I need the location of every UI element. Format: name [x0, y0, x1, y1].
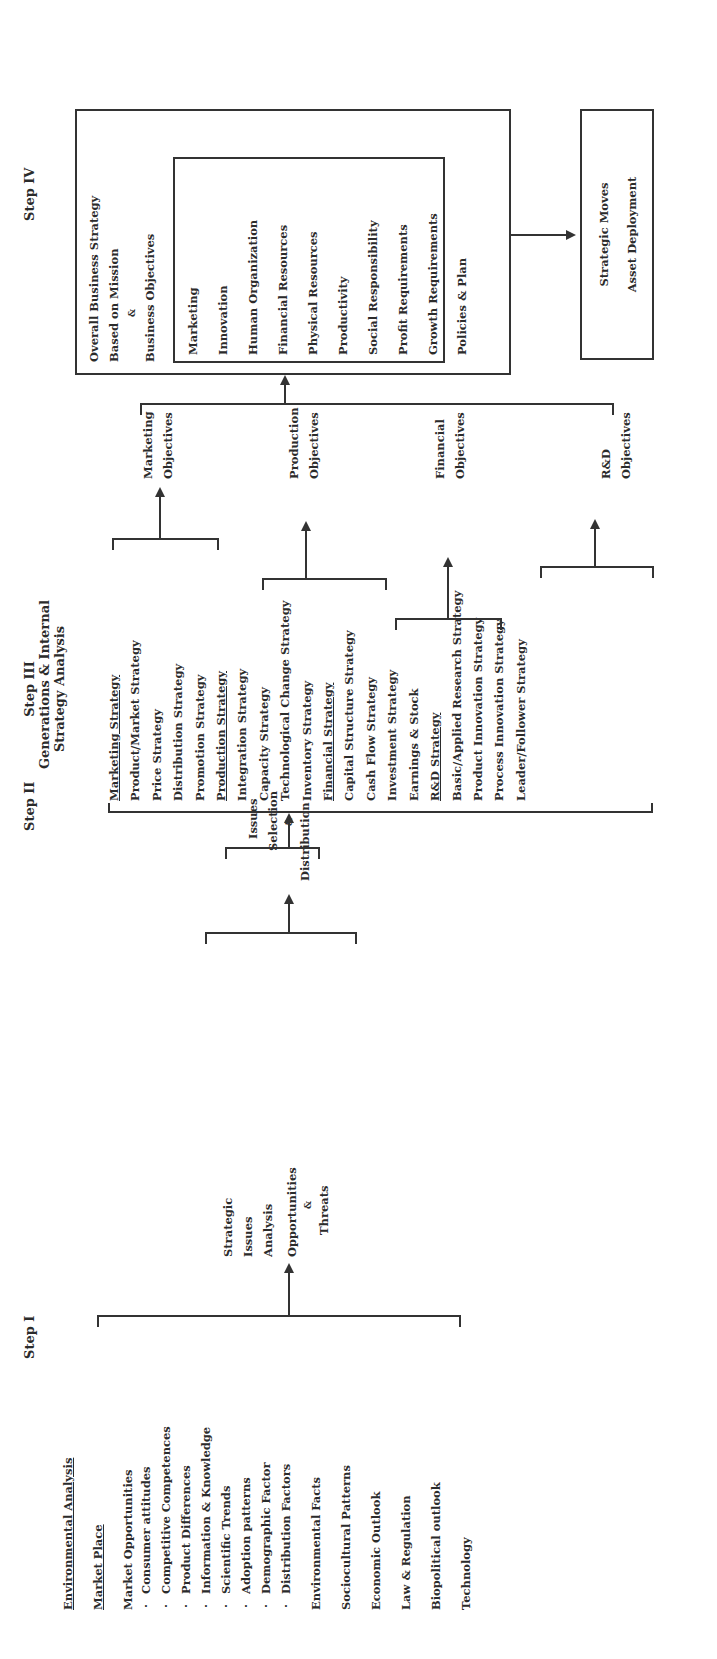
- arrow-right-icon: [155, 487, 165, 497]
- list-item: Sociocultural Patterns: [336, 1426, 356, 1610]
- marketing-bracket-tick: [217, 538, 219, 550]
- text-line: Overall Business Strategy: [84, 196, 104, 362]
- list-item: Distribution Factors: [276, 1426, 296, 1610]
- list-item: Profit Requirements: [388, 213, 418, 355]
- business-strategy-title: Overall Business Strategy Based on Missi…: [84, 196, 160, 362]
- arrow-right-icon: [284, 894, 294, 904]
- list-item: Earnings & Stock: [404, 591, 425, 801]
- list-item: Consumer attitudes: [136, 1426, 156, 1610]
- list-item: Price Strategy: [147, 591, 168, 801]
- step2-bracket: [205, 932, 357, 934]
- issues-bracket-tick-top: [225, 847, 227, 859]
- arrow-right-icon: [280, 375, 290, 385]
- text-line: Strategic: [218, 1167, 238, 1257]
- issues-connector: [288, 821, 290, 847]
- list-item: Cash Flow Strategy: [361, 591, 382, 801]
- step-3-subtitle-1: Generations & Internal: [37, 609, 52, 769]
- arrow-right-icon: [590, 519, 600, 529]
- marketing-bracket: [112, 538, 219, 540]
- text-line: Distribution: [295, 791, 315, 889]
- list-item: Product Differences: [176, 1426, 196, 1610]
- step-3-title: Step III: [22, 609, 37, 769]
- text-line: Financial: [430, 412, 450, 479]
- text-line: R&D: [596, 412, 616, 479]
- step-1-label: Step I: [22, 1316, 37, 1359]
- step-4-label: Step IV: [22, 168, 37, 221]
- step3-bracket: [108, 811, 653, 813]
- objectives-bracket-tick: [140, 403, 142, 415]
- strategic-issues-analysis: Strategic Issues Analysis Opportunities …: [218, 1167, 334, 1257]
- list-item: Capacity Strategy: [254, 591, 275, 801]
- internal-strategy-list: Marketing Strategy Product/Market Strate…: [104, 591, 532, 801]
- list-item: Capital Structure Strategy: [339, 591, 360, 801]
- objectives-bracket-tick: [612, 403, 614, 415]
- production-bracket-tick: [385, 578, 387, 590]
- financial-bracket-tick: [395, 618, 397, 630]
- text-line: Based on Mission: [104, 196, 124, 362]
- issues-selection-distribution: Issues Selection & Distribution: [243, 791, 315, 889]
- step1-bracket: [97, 1315, 461, 1317]
- text-line: Objectives: [158, 411, 178, 479]
- marketing-bracket-tick: [112, 538, 114, 550]
- production-strategy-heading: Production Strategy: [211, 591, 232, 801]
- list-item: Basic/Applied Research Strategy: [447, 591, 468, 801]
- text-line: Objectives: [304, 408, 324, 480]
- moves-connector: [511, 234, 567, 236]
- list-item: Human Organization: [238, 213, 268, 355]
- list-item: Distribution Strategy: [168, 591, 189, 801]
- text-line: Issues: [243, 791, 263, 889]
- text-line: Selection: [263, 791, 283, 889]
- production-bracket-tick: [262, 578, 264, 590]
- arrow-right-icon: [301, 521, 311, 531]
- list-item: Marketing: [178, 213, 208, 355]
- financial-bracket: [395, 618, 502, 620]
- step2-connector: [288, 904, 290, 932]
- list-item: Financial Resources: [268, 213, 298, 355]
- list-item: Information & Knowledge: [196, 1426, 216, 1610]
- market-opportunities-label: Market Opportunities: [118, 1426, 138, 1610]
- list-item: Promotion Strategy: [190, 591, 211, 801]
- step-3-label: Step III Generations & Internal Strategy…: [22, 609, 67, 769]
- list-item: Physical Resources: [298, 213, 328, 355]
- production-bracket: [262, 578, 387, 580]
- step2-bracket-tick-top: [205, 932, 207, 944]
- list-item: Economic Outlook: [366, 1426, 386, 1610]
- step1-connector: [288, 1273, 290, 1315]
- issues-bracket-tick-bottom: [318, 847, 320, 859]
- text-line: Marketing: [138, 411, 158, 479]
- list-item: Law & Regulation: [396, 1426, 416, 1610]
- rnd-connector: [594, 528, 596, 566]
- environmental-analysis-heading: Environmental Analysis: [58, 1426, 78, 1610]
- step-2-label: Step II: [22, 782, 37, 831]
- ampersand: &: [124, 196, 140, 362]
- strategic-moves-text: Strategic Moves Asset Deployment: [590, 109, 646, 360]
- text-line: Analysis: [258, 1167, 278, 1257]
- list-item: Competitive Competences: [156, 1426, 176, 1610]
- list-item: Productivity: [328, 213, 358, 355]
- text-line: Asset Deployment: [618, 109, 646, 360]
- financial-bracket-tick: [500, 618, 502, 630]
- text-line: Objectives: [450, 412, 470, 479]
- step3-bracket-tick-bottom: [651, 803, 653, 813]
- step3-bracket-tick-top: [108, 803, 110, 813]
- market-place-heading: Market Place: [88, 1426, 108, 1610]
- list-item: Scientific Trends: [216, 1426, 236, 1610]
- arrow-down-icon: [566, 230, 576, 240]
- arrow-right-icon: [284, 813, 294, 823]
- environmental-analysis-list: Environmental Analysis Market Place Mark…: [58, 1426, 476, 1610]
- text-line: Production: [284, 408, 304, 480]
- marketing-objectives: Marketing Objectives: [138, 411, 178, 479]
- business-objectives-heading: Business Objectives: [140, 196, 160, 362]
- text-line: Opportunities: [282, 1167, 302, 1257]
- rnd-bracket: [540, 566, 654, 568]
- text-line: Objectives: [616, 412, 636, 479]
- production-objectives: Production Objectives: [284, 408, 324, 480]
- policies-plan: Policies & Plan: [447, 258, 477, 355]
- step1-bracket-tick-top: [97, 1315, 99, 1327]
- step2-bracket-tick-bottom: [355, 932, 357, 944]
- business-objectives-list: Marketing Innovation Human Organization …: [178, 213, 448, 355]
- text-line: Strategic Moves: [590, 109, 618, 360]
- marketing-connector: [159, 496, 161, 538]
- ampersand: &: [302, 1167, 314, 1257]
- list-item: Integration Strategy: [232, 591, 253, 801]
